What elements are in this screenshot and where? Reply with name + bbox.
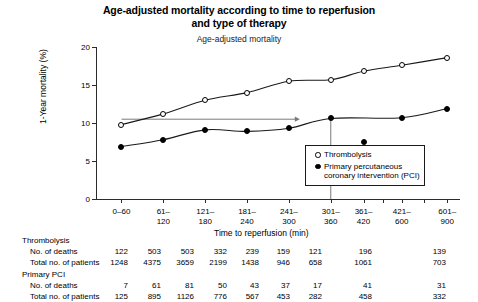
table-cell: 3659 [176, 258, 194, 267]
data-point-thrombolysis-3 [244, 90, 250, 96]
table-group-primary-pci: Primary PCINo. of deaths7618150433717413… [0, 270, 478, 302]
table-cell: 282 [309, 292, 322, 301]
data-point-thrombolysis-7 [399, 62, 405, 68]
data-point-thrombolysis-5 [328, 77, 334, 83]
table-cell: 139 [433, 247, 446, 256]
x-tick-label-0: 0–60 [113, 207, 131, 217]
table-cell: 239 [246, 247, 259, 256]
x-tick-label-5: 301–360 [322, 207, 340, 227]
table-cell: 81 [185, 281, 194, 290]
x-tick-8 [447, 199, 448, 203]
x-tick-6 [364, 199, 365, 203]
chart-title-line-1: Age-adjusted mortality according to time… [103, 4, 375, 16]
table-cell: 37 [281, 281, 290, 290]
table-cell: 776 [214, 292, 227, 301]
table-heading: Thrombolysis [22, 236, 70, 245]
table-cell: 503 [181, 247, 194, 256]
series-line-thrombolysis [121, 58, 447, 125]
y-tick-label-10: 10 [81, 119, 90, 128]
table-cell: 1061 [354, 258, 372, 267]
table-cell: 332 [214, 247, 227, 256]
x-axis-line [96, 199, 460, 200]
x-tick-label-8: 601–900 [438, 207, 456, 227]
x-tick-label-1: 61–120 [157, 207, 170, 227]
data-point-primary-pci-8 [444, 106, 450, 112]
table-cell: 658 [309, 258, 322, 267]
legend-box: Thrombolysis Primary percutaneous corona… [305, 145, 425, 186]
table-cell: 453 [277, 292, 290, 301]
table-cell: 895 [148, 292, 161, 301]
table-cell: 503 [148, 247, 161, 256]
table-cell: 2199 [209, 258, 227, 267]
table-cell: 196 [359, 247, 372, 256]
table-cell: 946 [277, 258, 290, 267]
annotation-arrow-head [295, 117, 300, 122]
chart-subtitle: Age-adjusted mortality [0, 34, 478, 44]
table-cell: 703 [433, 258, 446, 267]
table-cell: 61 [152, 281, 161, 290]
chart-title: Age-adjusted mortality according to time… [0, 4, 478, 30]
x-tick-2 [205, 199, 206, 203]
data-tables: ThrombolysisNo. of deaths122503503332239… [0, 236, 478, 302]
chart-title-line-2: and type of therapy [192, 17, 287, 29]
filled-circle-icon [312, 162, 324, 170]
y-tick-0 [92, 199, 96, 200]
x-tick-0 [121, 199, 122, 203]
legend-label-primary-pci: Primary percutaneous coronary interventi… [324, 162, 420, 181]
x-tick-label-2: 121–180 [196, 207, 214, 227]
data-point-thrombolysis-6 [361, 68, 367, 74]
table-cell: 7 [124, 281, 128, 290]
legend-item-primary-pci: Primary percutaneous coronary interventi… [312, 162, 420, 181]
data-point-primary-pci-2 [202, 127, 208, 133]
series-line-primary-pci [121, 109, 447, 147]
y-tick-label-5: 5 [86, 157, 90, 166]
y-tick-label-20: 20 [81, 43, 90, 52]
table-cell: 125 [115, 292, 128, 301]
x-tick-3 [247, 199, 248, 203]
legend-label-primary-pci-line-1: Primary percutaneous [324, 162, 402, 171]
y-axis-title: 1-Year mortality (%) [38, 49, 48, 124]
table-row-label: Total no. of patients [30, 292, 99, 301]
data-point-thrombolysis-8 [444, 55, 450, 61]
table-cell: 1438 [241, 258, 259, 267]
table-row-label: Total no. of patients [30, 258, 99, 267]
y-tick-15 [92, 85, 96, 86]
y-tick-label-0: 0 [86, 195, 90, 204]
x-tick-7 [402, 199, 403, 203]
y-tick-label-15: 15 [81, 81, 90, 90]
legend-label-thrombolysis: Thrombolysis [324, 150, 372, 160]
x-tick-1 [163, 199, 164, 203]
table-cell: 332 [433, 292, 446, 301]
table-cell: 567 [246, 292, 259, 301]
table-row-label: No. of deaths [30, 281, 78, 290]
table-cell: 122 [115, 247, 128, 256]
open-circle-icon [312, 150, 324, 158]
y-tick-5 [92, 161, 96, 162]
x-tick-5 [331, 199, 332, 203]
table-cell: 121 [309, 247, 322, 256]
x-tick-4 [289, 199, 290, 203]
x-tick-label-4: 241–300 [280, 207, 298, 227]
table-cell: 1126 [177, 292, 194, 301]
table-cell: 31 [437, 281, 446, 290]
x-minor-tick-0 [383, 199, 384, 203]
y-tick-10 [92, 123, 96, 124]
table-cell: 458 [359, 292, 372, 301]
table-heading: Primary PCI [22, 270, 65, 279]
table-row-label: No. of deaths [30, 247, 78, 256]
table-cell: 50 [218, 281, 227, 290]
table-group-thrombolysis: ThrombolysisNo. of deaths122503503332239… [0, 236, 478, 270]
table-cell: 4375 [143, 258, 161, 267]
legend-item-thrombolysis: Thrombolysis [312, 150, 420, 160]
x-minor-tick-1 [424, 199, 425, 203]
table-cell: 159 [277, 247, 290, 256]
table-cell: 17 [313, 281, 322, 290]
data-point-primary-pci-7 [399, 115, 405, 121]
x-tick-label-6: 361–420 [355, 207, 373, 227]
x-tick-label-7: 421–600 [393, 207, 411, 227]
legend-label-primary-pci-line-2: coronary intervention (PCI) [324, 171, 420, 180]
x-tick-label-3: 181–240 [238, 207, 256, 227]
table-cell: 43 [250, 281, 259, 290]
table-cell: 41 [363, 281, 372, 290]
